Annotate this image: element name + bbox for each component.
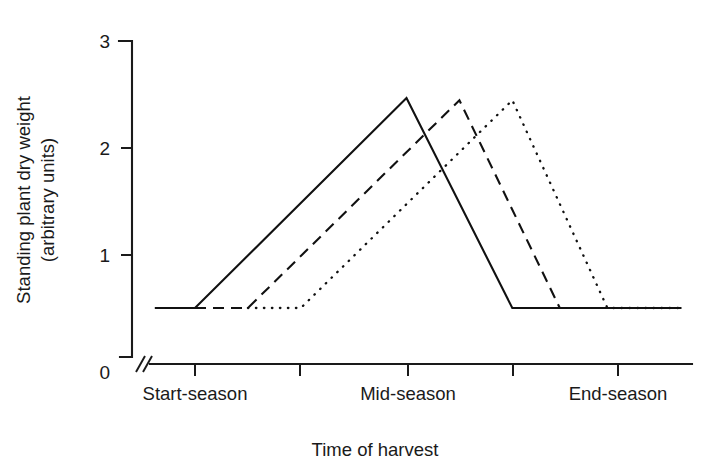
x-axis: [150, 364, 692, 376]
series-line-mid-cohort: [195, 100, 682, 308]
y-axis-title-line1: Standing plant dry weight: [13, 96, 34, 304]
x-axis-title: Time of harvest: [312, 439, 439, 460]
series-line-early-cohort: [155, 98, 682, 308]
x-tick-label-end-season: End-season: [569, 383, 668, 404]
x-tick-label-start-season: Start-season: [143, 383, 248, 404]
y-tick-label-1: 1: [99, 245, 110, 266]
line-chart: 3 2 1 0 Start-season Mid-season End-seas…: [0, 0, 706, 473]
series-line-late-cohort: [248, 100, 682, 308]
y-tick-label-2: 2: [99, 138, 110, 159]
y-tick-label-0: 0: [99, 362, 110, 383]
x-tick-label-mid-season: Mid-season: [360, 383, 456, 404]
y-axis-spine: [119, 41, 132, 357]
chart-figure: 3 2 1 0 Start-season Mid-season End-seas…: [0, 0, 706, 473]
y-axis-title-line2: (arbitrary units): [37, 138, 58, 262]
y-tick-label-3: 3: [99, 31, 110, 52]
y-axis: [119, 41, 132, 357]
